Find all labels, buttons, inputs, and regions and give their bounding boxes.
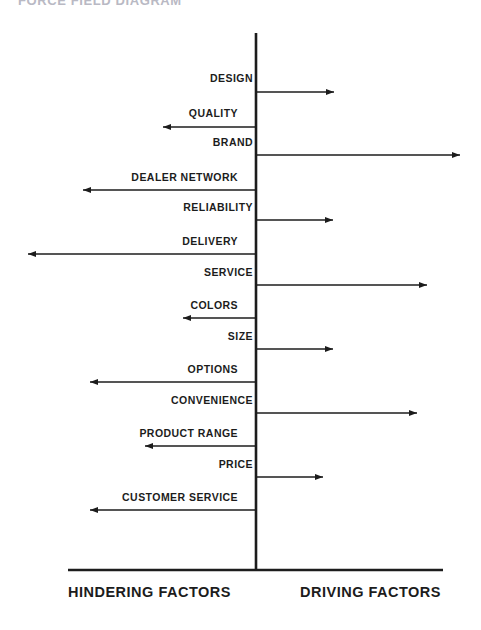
factor-label: OPTIONS [188,363,238,375]
factor-label: SIZE [228,330,253,342]
factor-label: PRODUCT RANGE [139,427,238,439]
factor-label: DELIVERY [182,235,238,247]
hindering-factors-caption: HINDERING FACTORS [68,584,231,600]
force-field-chart: DESIGNQUALITYBRANDDEALER NETWORKRELIABIL… [0,0,481,630]
factor-label: DESIGN [210,72,253,84]
factor-label: PRICE [219,458,253,470]
factor-label: COLORS [190,299,238,311]
factor-label: CONVENIENCE [171,394,253,406]
force-arrow-group [28,92,460,510]
factor-label: SERVICE [204,266,253,278]
force-label-group: DESIGNQUALITYBRANDDEALER NETWORKRELIABIL… [122,72,253,503]
factor-label: BRAND [213,136,253,148]
factor-label: DEALER NETWORK [131,171,238,183]
factor-label: QUALITY [189,107,238,119]
driving-factors-caption: DRIVING FACTORS [300,584,441,600]
factor-label: RELIABILITY [183,201,253,213]
factor-label: CUSTOMER SERVICE [122,491,238,503]
force-field-diagram-page: FORCE FIELD DIAGRAM DESIGNQUALITYBRANDDE… [0,0,481,630]
